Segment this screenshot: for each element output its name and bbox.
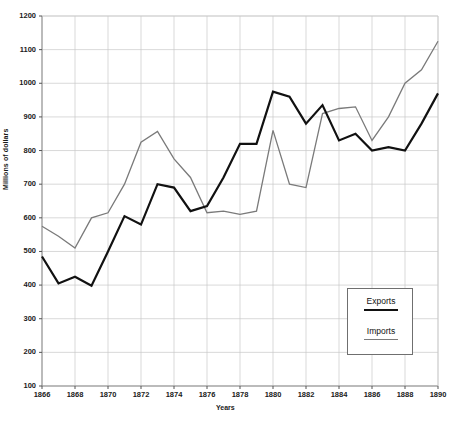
x-tick-1868: 1868 <box>58 391 92 399</box>
y-tick-300: 300 <box>8 315 36 323</box>
y-tick-500: 500 <box>8 247 36 255</box>
x-tick-1884: 1884 <box>322 391 356 399</box>
legend-label-imports: Imports <box>348 327 414 336</box>
legend-swatch-imports <box>364 339 398 340</box>
y-tick-800: 800 <box>8 147 36 155</box>
y-tick-400: 400 <box>8 281 36 289</box>
y-tick-200: 200 <box>8 348 36 356</box>
x-tick-1882: 1882 <box>289 391 323 399</box>
x-tick-1888: 1888 <box>388 391 422 399</box>
legend-item-imports: Imports <box>348 327 414 340</box>
x-tick-1878: 1878 <box>223 391 257 399</box>
x-tick-1876: 1876 <box>190 391 224 399</box>
y-tick-1100: 1100 <box>8 46 36 54</box>
x-tick-1880: 1880 <box>256 391 290 399</box>
legend-label-exports: Exports <box>348 297 414 306</box>
y-tick-700: 700 <box>8 180 36 188</box>
chart-canvas <box>0 0 453 427</box>
line-chart: Millions of dollars Years 10020030040050… <box>0 0 453 427</box>
y-axis-title: Millions of dollars <box>2 70 9 190</box>
x-tick-1866: 1866 <box>25 391 59 399</box>
y-tick-1000: 1000 <box>8 79 36 87</box>
x-axis-title: Years <box>216 404 235 411</box>
y-tick-100: 100 <box>8 382 36 390</box>
y-tick-900: 900 <box>8 113 36 121</box>
y-tick-600: 600 <box>8 214 36 222</box>
x-tick-1872: 1872 <box>124 391 158 399</box>
x-tick-1886: 1886 <box>355 391 389 399</box>
y-tick-1200: 1200 <box>8 12 36 20</box>
x-tick-1890: 1890 <box>421 391 453 399</box>
legend-item-exports: Exports <box>348 297 414 311</box>
x-tick-1870: 1870 <box>91 391 125 399</box>
chart-legend: Exports Imports <box>347 288 413 355</box>
legend-swatch-exports <box>364 309 398 311</box>
x-tick-1874: 1874 <box>157 391 191 399</box>
